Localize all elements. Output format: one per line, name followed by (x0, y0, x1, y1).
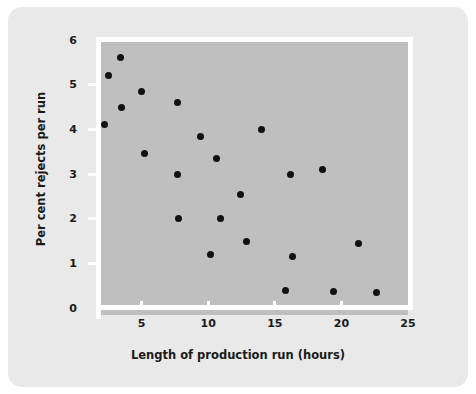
y-tick-mark (88, 83, 97, 86)
y-tick-mark (88, 128, 97, 131)
x-tick-label: 25 (393, 317, 423, 330)
y-tick-mark (88, 217, 97, 220)
y-tick-2: 2 (8, 213, 101, 224)
x-tick-label: 15 (260, 317, 290, 330)
y-tick-0: 0 (8, 303, 101, 314)
y-tick-3: 3 (8, 169, 101, 180)
x-tick-label: 5 (127, 317, 157, 330)
x-axis-title: Length of production run (hours) (8, 348, 468, 362)
scatter-point (217, 215, 224, 222)
scatter-point (213, 155, 220, 162)
y-tick-6: 6 (8, 35, 101, 46)
x-tick-mark (273, 301, 276, 310)
scatter-point (138, 88, 145, 95)
y-tick-mark (88, 173, 97, 176)
y-tick-label: 5 (63, 79, 77, 90)
scatter-point (118, 104, 125, 111)
scatter-point (373, 289, 380, 296)
axis-line-top (96, 37, 413, 42)
y-tick-label: 3 (63, 169, 77, 180)
x-tick-mark (140, 301, 143, 310)
scatter-point (237, 191, 244, 198)
y-tick-mark (88, 262, 97, 265)
scatter-point (282, 287, 289, 294)
plot-area (100, 40, 408, 315)
scatter-point (243, 238, 250, 245)
scatter-point (330, 288, 337, 295)
axis-line-right (408, 37, 413, 310)
x-tick-mark (207, 301, 210, 310)
x-tick-mark (340, 301, 343, 310)
scatter-point (355, 240, 362, 247)
y-tick-label: 6 (63, 35, 77, 46)
x-tick-label: 20 (326, 317, 356, 330)
x-axis-line (96, 305, 413, 310)
y-tick-label: 4 (63, 124, 77, 135)
y-tick-label: 2 (63, 213, 77, 224)
scatter-point (174, 171, 181, 178)
scatter-point (105, 72, 112, 79)
scatter-point (258, 126, 265, 133)
scatter-point (289, 253, 296, 260)
figure-panel: 0123456 510152025 Per cent rejects per r… (8, 7, 468, 387)
scatter-point (197, 133, 204, 140)
y-tick-label: 0 (63, 303, 77, 314)
y-tick-label: 1 (63, 258, 77, 269)
y-axis-title: Per cent rejects per run (34, 74, 48, 264)
scatter-point (287, 171, 294, 178)
y-tick-4: 4 (8, 124, 101, 135)
y-tick-5: 5 (8, 79, 101, 90)
x-tick-label: 10 (193, 317, 223, 330)
y-tick-1: 1 (8, 258, 101, 269)
